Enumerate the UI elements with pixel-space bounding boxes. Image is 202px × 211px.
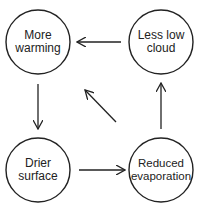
node-label: Less low cloud xyxy=(135,29,187,55)
node-less-low-cloud: Less low cloud xyxy=(128,9,194,75)
arrow-evaporation-to-warming xyxy=(85,90,116,122)
node-label: More warming xyxy=(12,29,64,55)
node-label: Reduced evaporation xyxy=(129,157,193,183)
node-label: Drier surface xyxy=(15,157,61,183)
node-more-warming: More warming xyxy=(5,9,71,75)
node-reduced-evaporation: Reduced evaporation xyxy=(128,137,194,203)
node-drier-surface: Drier surface xyxy=(5,137,71,203)
